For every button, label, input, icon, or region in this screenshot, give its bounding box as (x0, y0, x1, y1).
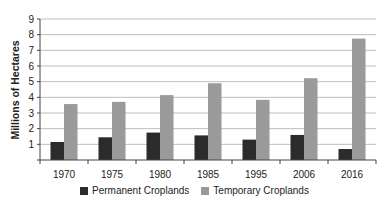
x-tick-label: 2006 (293, 169, 316, 180)
bar-temporary-1975 (112, 102, 126, 160)
legend-swatch-temporary (201, 187, 209, 195)
y-tick-label: 5 (28, 76, 34, 87)
y-tick-label: 8 (28, 29, 34, 40)
x-tick-label: 1985 (197, 169, 220, 180)
x-tick-label: 2016 (341, 169, 364, 180)
bar-temporary-1985 (208, 83, 222, 160)
y-tick-label: 1 (28, 139, 34, 150)
legend-item-temporary: Temporary Croplands (201, 185, 309, 196)
y-tick-label: 7 (28, 45, 34, 56)
legend: Permanent Croplands Temporary Croplands (0, 185, 389, 196)
x-tick-label: 1980 (149, 169, 172, 180)
bar-temporary-2006 (304, 78, 318, 160)
x-tick-label: 1970 (53, 169, 76, 180)
legend-item-permanent: Permanent Croplands (80, 185, 189, 196)
bar-chart: Millions of Hectares 123456789 197019751… (0, 0, 389, 208)
bar-temporary-1995 (256, 100, 270, 160)
legend-swatch-permanent (80, 187, 88, 195)
bar-temporary-1970 (64, 104, 78, 160)
x-tick-label: 1975 (101, 169, 124, 180)
bar-permanent-1980 (147, 133, 161, 160)
bar-temporary-1980 (160, 95, 174, 160)
bar-permanent-1975 (99, 137, 113, 160)
legend-label-temporary: Temporary Croplands (213, 185, 309, 196)
y-tick-label: 9 (28, 14, 34, 25)
bar-permanent-2006 (291, 135, 305, 160)
y-tick-label: 6 (28, 61, 34, 72)
bar-permanent-2016 (339, 149, 353, 160)
bars (51, 39, 366, 160)
y-tick-label: 2 (28, 123, 34, 134)
y-axis-ticks: 123456789 (28, 14, 40, 161)
x-axis: 1970197519801985199520062016 (40, 160, 376, 180)
legend-label-permanent: Permanent Croplands (92, 185, 189, 196)
y-axis-label: Millions of Hectares (9, 40, 21, 139)
x-tick-label: 1995 (245, 169, 268, 180)
bar-permanent-1970 (51, 142, 65, 160)
bar-permanent-1995 (243, 140, 257, 160)
bar-permanent-1985 (195, 135, 209, 160)
bar-temporary-2016 (352, 39, 366, 160)
y-tick-label: 3 (28, 108, 34, 119)
y-tick-label: 4 (28, 92, 34, 103)
